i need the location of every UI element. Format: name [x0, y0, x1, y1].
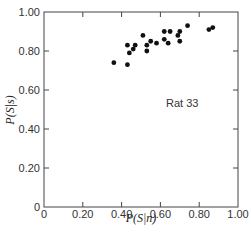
data-point [177, 39, 182, 44]
y-axis-title: P(S|s) [3, 95, 17, 125]
y-tick-label: 0.60 [19, 84, 40, 96]
data-point [127, 51, 132, 56]
y-tick-label: 0 [34, 201, 40, 213]
y-tick-label: 1.00 [19, 6, 40, 18]
data-point [162, 29, 167, 34]
data-point [177, 29, 182, 34]
scatter-chart: 00.200.400.600.801.00 00.200.400.600.801… [0, 0, 251, 241]
data-points [111, 23, 215, 67]
y-tick-label: 0.40 [19, 123, 40, 135]
data-point [144, 49, 149, 54]
annotation-rat-33: Rat 33 [166, 97, 198, 109]
data-point [133, 43, 138, 48]
data-point [141, 33, 146, 38]
data-point [125, 43, 130, 48]
data-point [185, 23, 190, 28]
x-tick-label: 0 [41, 208, 47, 220]
data-point [111, 60, 116, 65]
plot-frame [44, 12, 238, 207]
x-axis-ticks: 00.200.400.600.801.00 [41, 12, 249, 220]
data-point [210, 25, 215, 30]
x-axis-title: P(S|n) [125, 211, 157, 225]
data-point [162, 37, 167, 42]
y-tick-label: 0.20 [19, 162, 40, 174]
data-point [148, 39, 153, 44]
data-point [144, 43, 149, 48]
data-point [166, 41, 171, 46]
x-tick-label: 1.00 [227, 208, 248, 220]
x-tick-label: 0.20 [72, 208, 93, 220]
y-axis-ticks: 00.200.400.600.801.00 [19, 6, 238, 213]
data-point [154, 41, 159, 46]
y-tick-label: 0.80 [19, 45, 40, 57]
data-point [168, 29, 173, 34]
data-point [125, 62, 130, 67]
x-tick-label: 0.80 [188, 208, 209, 220]
